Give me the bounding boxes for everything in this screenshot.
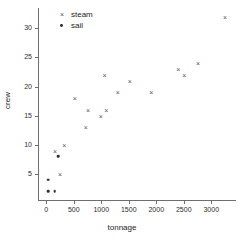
x-axis-tick bbox=[184, 201, 185, 204]
y-axis-tick bbox=[35, 28, 38, 29]
y-axis-tick bbox=[35, 145, 38, 146]
data-point-sail bbox=[47, 178, 50, 181]
scatter-plot-figure: 51015202530050010001500200025003000 ××××… bbox=[0, 0, 244, 243]
y-axis-tick-label: 20 bbox=[10, 83, 32, 91]
x-axis-tick-label: 1500 bbox=[116, 206, 142, 214]
data-point-sail bbox=[57, 155, 60, 158]
x-axis-tick-label: 1000 bbox=[88, 206, 114, 214]
y-axis-tick bbox=[35, 57, 38, 58]
y-axis-tick-label: 5 bbox=[10, 170, 32, 178]
y-axis-title: crew bbox=[3, 81, 12, 121]
data-point-steam: × bbox=[58, 170, 62, 177]
y-axis-tick-label: 15 bbox=[10, 112, 32, 120]
data-point-steam: × bbox=[128, 77, 132, 84]
x-axis-tick-label: 3000 bbox=[198, 206, 224, 214]
legend-marker-sail-icon bbox=[60, 24, 63, 27]
legend-item-sail: sail bbox=[57, 20, 127, 31]
data-point-steam: × bbox=[116, 89, 120, 96]
x-axis-line bbox=[38, 200, 236, 201]
data-point-steam: × bbox=[149, 89, 153, 96]
x-axis-tick-label: 2000 bbox=[143, 206, 169, 214]
x-axis-tick bbox=[211, 201, 212, 204]
data-point-steam: × bbox=[176, 66, 180, 73]
legend-item-steam: × steam bbox=[57, 9, 127, 20]
x-axis-tick bbox=[101, 201, 102, 204]
data-point-steam: × bbox=[99, 112, 103, 119]
data-point-steam: × bbox=[53, 147, 57, 154]
x-axis-tick-label: 2500 bbox=[171, 206, 197, 214]
data-point-sail bbox=[53, 190, 56, 193]
data-point-steam: × bbox=[84, 124, 88, 131]
y-axis-tick-label: 25 bbox=[10, 53, 32, 61]
x-axis-tick-label: 500 bbox=[61, 206, 87, 214]
y-axis-tick bbox=[35, 174, 38, 175]
data-point-steam: × bbox=[73, 95, 77, 102]
x-axis-tick bbox=[74, 201, 75, 204]
legend: × steam sail bbox=[57, 9, 127, 31]
x-axis-tick bbox=[156, 201, 157, 204]
legend-label-steam: steam bbox=[71, 9, 93, 20]
y-axis-tick-label: 30 bbox=[10, 24, 32, 32]
x-axis-tick bbox=[129, 201, 130, 204]
data-point-steam: × bbox=[182, 71, 186, 78]
x-axis-tick bbox=[46, 201, 47, 204]
data-point-steam: × bbox=[86, 106, 90, 113]
data-point-steam: × bbox=[62, 141, 66, 148]
legend-marker-steam-icon: × bbox=[57, 9, 67, 20]
y-axis-tick-label: 10 bbox=[10, 141, 32, 149]
data-point-steam: × bbox=[103, 71, 107, 78]
legend-label-sail: sail bbox=[71, 20, 83, 31]
y-axis-tick bbox=[35, 87, 38, 88]
data-point-steam: × bbox=[104, 106, 108, 113]
x-axis-tick-label: 0 bbox=[33, 206, 59, 214]
data-point-sail bbox=[47, 190, 50, 193]
y-axis-line bbox=[38, 8, 39, 200]
x-axis-title: tonnage bbox=[0, 223, 244, 232]
y-axis-tick bbox=[35, 116, 38, 117]
data-point-steam: × bbox=[223, 13, 227, 20]
data-point-steam: × bbox=[196, 60, 200, 67]
